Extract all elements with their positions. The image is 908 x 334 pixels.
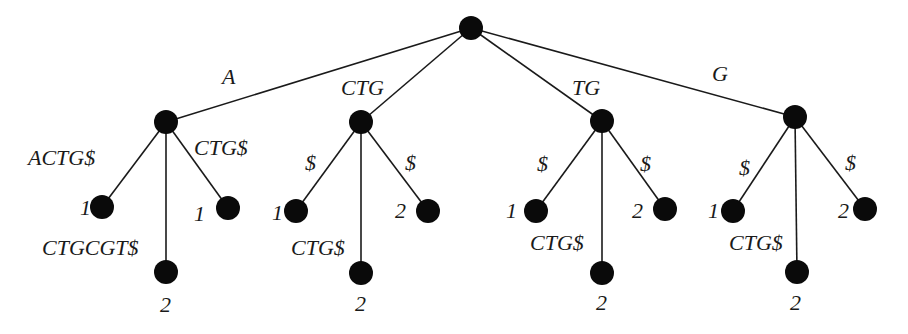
edge-label: CTG bbox=[341, 75, 384, 100]
edge-root-to-G bbox=[471, 28, 795, 117]
edge-label: $ bbox=[537, 151, 548, 176]
edge-root-to-A bbox=[166, 28, 471, 122]
edge-label: CTG$ bbox=[291, 235, 345, 260]
edge-label: $ bbox=[845, 150, 856, 175]
edge-label: CTG$ bbox=[530, 230, 584, 255]
edge-label: $ bbox=[640, 151, 651, 176]
leaf-string-id-label: 1 bbox=[708, 198, 719, 223]
edge-G-to-G-mid bbox=[795, 117, 797, 272]
edge-label: $ bbox=[405, 150, 416, 175]
leaf-string-id-label: 1 bbox=[272, 200, 283, 225]
edge-label: $ bbox=[305, 150, 316, 175]
leaf-string-id-label: 2 bbox=[790, 290, 801, 315]
leaf-node bbox=[721, 199, 745, 223]
internal-node bbox=[154, 110, 178, 134]
leaf-node bbox=[524, 199, 548, 223]
edge-label: $ bbox=[739, 155, 750, 180]
edge-label: A bbox=[220, 64, 236, 89]
internal-node bbox=[783, 105, 807, 129]
edge-label: CTG$ bbox=[729, 230, 783, 255]
edge-label: TG bbox=[572, 75, 600, 100]
suffix-tree-diagram: ACTGTGGACTG$CTGCGT$CTG$$CTG$$$CTG$$$CTG$… bbox=[0, 0, 908, 334]
edge-TG-to-TG-right bbox=[602, 121, 665, 209]
leaf-string-id-label: 1 bbox=[194, 201, 205, 226]
edge-label: ACTG$ bbox=[26, 145, 95, 170]
leaf-string-id-label: 2 bbox=[160, 292, 171, 317]
edge-labels-layer: ACTGTGGACTG$CTGCGT$CTG$$CTG$$$CTG$$$CTG$… bbox=[26, 61, 856, 260]
leaf-node bbox=[653, 197, 677, 221]
leaf-string-id-label: 1 bbox=[80, 195, 91, 220]
leaf-string-id-label: 2 bbox=[838, 198, 849, 223]
edge-label: G bbox=[712, 61, 728, 86]
leaf-node bbox=[590, 261, 614, 285]
leaf-node bbox=[349, 261, 373, 285]
leaf-string-id-label: 2 bbox=[632, 198, 643, 223]
leaf-string-id-label: 2 bbox=[395, 198, 406, 223]
edge-label: CTG$ bbox=[194, 135, 248, 160]
edge-A-to-A-left bbox=[102, 122, 166, 207]
leaf-string-id-label: 2 bbox=[596, 290, 607, 315]
leaf-node bbox=[216, 196, 240, 220]
internal-node bbox=[349, 110, 373, 134]
leaf-node bbox=[853, 197, 877, 221]
leaf-node bbox=[154, 260, 178, 284]
edge-label: CTGCGT$ bbox=[42, 235, 139, 260]
leaf-node bbox=[284, 199, 308, 223]
leaf-string-id-label: 1 bbox=[506, 198, 517, 223]
leaf-node bbox=[416, 199, 440, 223]
internal-node bbox=[590, 109, 614, 133]
leaf-node bbox=[90, 195, 114, 219]
root-node bbox=[459, 16, 483, 40]
leaf-string-id-label: 2 bbox=[355, 291, 366, 316]
leaf-node bbox=[785, 260, 809, 284]
